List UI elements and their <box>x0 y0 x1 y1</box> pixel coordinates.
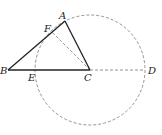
label-d: D <box>147 65 156 76</box>
label-f: F <box>43 23 52 34</box>
segment-ac <box>65 21 90 70</box>
segment-cf <box>52 32 90 70</box>
label-c: C <box>84 72 92 83</box>
segment-ab <box>8 21 65 70</box>
label-b: B <box>0 65 7 76</box>
label-a: A <box>58 10 66 21</box>
label-e: E <box>27 72 36 83</box>
geometry-diagram: A F B E C D <box>0 0 162 135</box>
